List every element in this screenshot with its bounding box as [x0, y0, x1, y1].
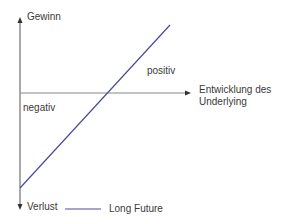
x-axis-label-line2: Underlying	[199, 96, 247, 108]
y-axis-down-arrow-icon	[18, 204, 23, 210]
y-axis-up-arrow-icon	[18, 17, 23, 23]
legend-label: Long Future	[109, 203, 163, 215]
x-axis-arrow-icon	[185, 91, 191, 96]
region-positive-label: positiv	[147, 65, 175, 77]
region-negative-label: negativ	[23, 102, 55, 114]
y-axis-bottom-label: Verlust	[27, 201, 58, 213]
x-axis-label-line1: Entwicklung des	[199, 84, 271, 96]
y-axis-top-label: Gewinn	[27, 11, 61, 23]
